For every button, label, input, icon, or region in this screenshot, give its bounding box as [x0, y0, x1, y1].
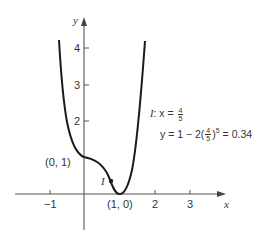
y-axis-label: y	[72, 14, 78, 26]
annotation-value: = 0.34	[220, 128, 252, 140]
inflection-annotation-line1: I: x = 45	[150, 107, 184, 122]
point-label-1-0: (1, 0)	[107, 198, 133, 210]
inflection-label: I	[100, 175, 106, 187]
x-axis-arrow-icon	[217, 191, 226, 197]
annotation-y-text: y = 1 − 2(	[160, 128, 204, 140]
fraction-4-5: 45	[178, 107, 184, 122]
y-tick-label-2: 2	[74, 115, 80, 127]
graph-canvas: −1 2 3 2 3 4 x y (0, 1) (1, 0) I	[0, 0, 263, 243]
y-axis-arrow-icon	[81, 17, 87, 26]
y-tick-label-3: 3	[74, 79, 80, 91]
inflection-point-marker	[109, 179, 113, 183]
x-axis-label: x	[223, 198, 229, 210]
x-tick-label-3: 3	[187, 198, 193, 210]
fraction-4-5-inner: 45	[205, 127, 211, 142]
annotation-x-text: : x =	[154, 107, 177, 119]
inflection-annotation-line2: y = 1 − 2(45)5 = 0.34	[160, 127, 252, 142]
x-tick-label-neg1: −1	[44, 198, 57, 210]
function-curve	[59, 40, 145, 194]
x-tick-label-2: 2	[152, 198, 158, 210]
point-label-0-1: (0, 1)	[45, 156, 71, 168]
y-tick-label-4: 4	[74, 42, 80, 54]
